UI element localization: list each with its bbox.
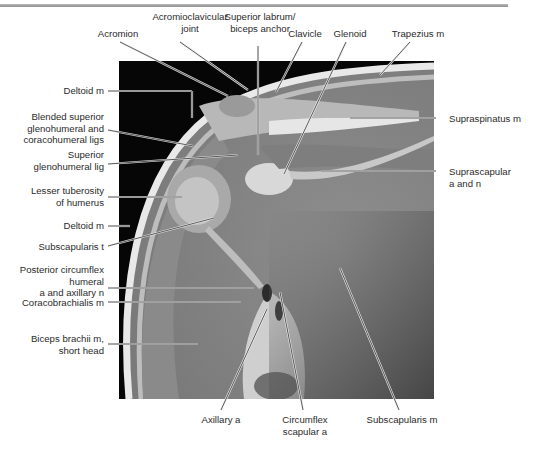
- label-axillary-a: Axillary a: [186, 414, 256, 426]
- top-rule: [0, 4, 508, 7]
- label-trapezius: Trapezius m: [383, 28, 453, 40]
- label-blended-ligs: Blended superior glenohumeral and coraco…: [0, 111, 104, 146]
- label-subscapularis-t: Subscapularis t: [0, 241, 104, 253]
- mri-rendering: [119, 61, 434, 399]
- label-clavicle: Clavicle: [285, 28, 325, 40]
- label-lesser-tuberosity: Lesser tuberosity of humerus: [0, 185, 104, 208]
- label-circumflex-scapular: Circumflex scapular a: [280, 414, 330, 437]
- label-superior-glenohumeral-lig: Superior glenohumeral lig: [0, 149, 104, 172]
- mri-image: [119, 61, 434, 399]
- label-subscapularis-m: Subscapularis m: [362, 414, 442, 426]
- label-coracobrachialis: Coracobrachialis m: [0, 297, 104, 309]
- label-supraspinatus: Supraspinatus m: [449, 113, 541, 125]
- label-deltoid-lower: Deltoid m: [0, 220, 104, 232]
- label-posterior-circumflex: Posterior circumflex humeral a and axill…: [0, 264, 104, 299]
- label-acromion: Acromion: [83, 28, 153, 40]
- label-biceps-brachii: Biceps brachii m, short head: [0, 333, 104, 356]
- label-deltoid-upper: Deltoid m: [0, 85, 104, 97]
- label-glenoid: Glenoid: [328, 28, 372, 40]
- label-suprascapular: Suprascapular a and n: [449, 166, 541, 189]
